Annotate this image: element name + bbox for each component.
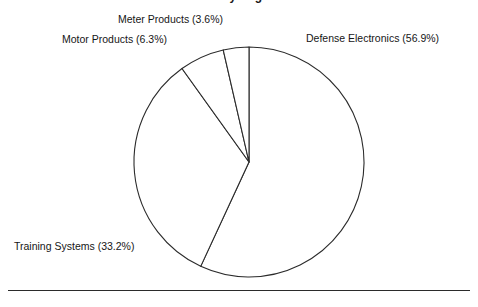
- pie-label-defense-electronics: Defense Electronics (56.9%): [306, 32, 439, 44]
- pie-chart-graphic: [0, 0, 478, 307]
- pie-chart-figure: Sales by Segment Meter Products (3.6%) M…: [0, 0, 478, 307]
- pie-slice-group: [134, 47, 364, 277]
- pie-label-training-systems: Training Systems (33.2%): [14, 240, 134, 252]
- pie-label-motor-products: Motor Products (6.3%): [62, 33, 167, 45]
- pie-label-meter-products: Meter Products (3.6%): [118, 13, 223, 25]
- footer-rule: [8, 290, 470, 291]
